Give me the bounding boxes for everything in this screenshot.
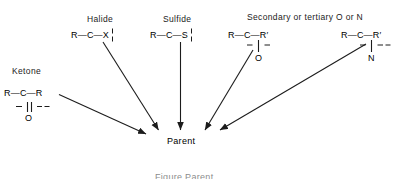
parent-node-label: Parent (167, 136, 195, 146)
secondary-o-r-prime: R′ (260, 30, 269, 40)
secondary-o-bond-right: — (251, 30, 260, 40)
sulfide-r-left: R (150, 30, 157, 40)
ketone-bond-right: — (27, 88, 36, 98)
secondary-o-carbon: C (244, 30, 251, 40)
halide-label: Halide (87, 14, 113, 24)
ketone-bond-left: — (11, 88, 20, 98)
tertiary-n-carbon: C (357, 30, 364, 40)
ketone-label: Ketone (12, 66, 41, 76)
halide-r-left: R (71, 30, 78, 40)
halide-x: X (103, 30, 109, 40)
arrow-secondary-o-to-parent (205, 50, 253, 130)
tertiary-n-formula: R—C—R′ (341, 30, 381, 40)
arrow-ketone-to-parent (59, 95, 146, 135)
halide-formula: R—C—X (71, 30, 109, 40)
sulfide-bond-left: — (157, 30, 166, 40)
sulfide-formula: R—C—S (150, 30, 188, 40)
arrow-layer (0, 0, 411, 179)
figure-caption: Figure Parent (155, 172, 213, 179)
secondary-oxygen: O (255, 53, 262, 63)
ketone-carbon: C (20, 88, 27, 98)
sulfide-carbon: C (166, 30, 173, 40)
sulfide-label: Sulfide (163, 14, 191, 24)
secondary-tertiary-label: Secondary or tertiary O or N (247, 12, 363, 22)
sulfide-s: S (182, 30, 188, 40)
secondary-o-bond-left: — (235, 30, 244, 40)
tertiary-n-bond-left: — (348, 30, 357, 40)
tertiary-n-r-prime: R′ (373, 30, 382, 40)
ketone-oxygen: O (25, 113, 32, 123)
tertiary-nitrogen: N (368, 53, 375, 63)
halide-bond-right: — (94, 30, 103, 40)
secondary-o-r-left: R (228, 30, 235, 40)
secondary-o-formula: R—C—R′ (228, 30, 268, 40)
sulfide-bond-right: — (173, 30, 182, 40)
arrow-tertiary-n-to-parent (220, 44, 366, 130)
halide-carbon: C (87, 30, 94, 40)
ketone-r-right: R (36, 88, 43, 98)
ketone-r-left: R (4, 88, 11, 98)
tertiary-n-r-left: R (341, 30, 348, 40)
ketone-formula: R—C—R (4, 88, 43, 98)
tertiary-n-bond-right: — (364, 30, 373, 40)
arrow-halide-to-parent (103, 42, 159, 130)
reaction-diagram: Ketone R—C—R O Halide R—C—X Sulfide R—C—… (0, 0, 411, 179)
halide-bond-left: — (78, 30, 87, 40)
